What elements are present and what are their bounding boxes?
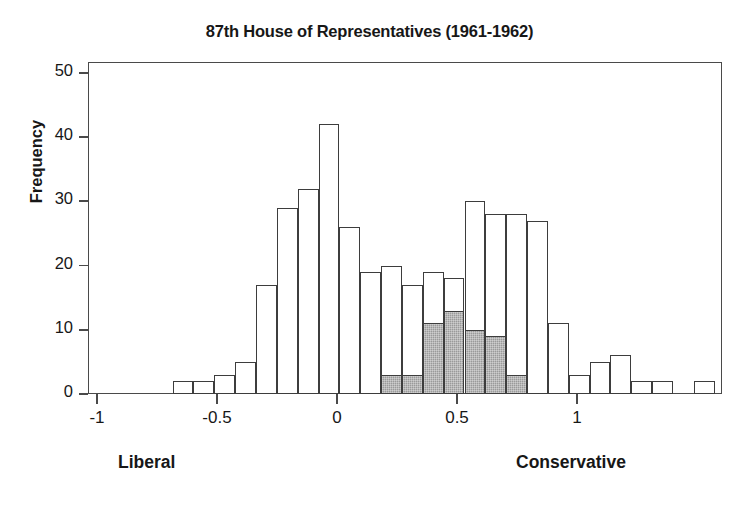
x-tick-label: -0.5	[187, 408, 247, 428]
x-axis-annotation-conservative: Conservative	[516, 452, 626, 473]
y-tick-label: 50	[55, 61, 73, 80]
x-tick-mark	[216, 394, 218, 404]
x-tick-label: 1	[547, 408, 607, 428]
y-tick-mark	[79, 200, 88, 202]
x-tick-mark	[336, 394, 338, 404]
y-tick-mark	[79, 329, 88, 331]
x-tick-mark	[96, 394, 98, 404]
y-tick-label: 30	[55, 189, 73, 208]
y-tick-mark	[79, 72, 88, 74]
x-tick-label: -1	[67, 408, 127, 428]
y-tick-label: 0	[64, 382, 73, 401]
chart-title: 87th House of Representatives (1961-1962…	[0, 22, 739, 41]
x-tick-mark	[576, 394, 578, 404]
y-tick-mark	[79, 393, 88, 395]
y-tick-mark	[79, 265, 88, 267]
y-tick-mark	[79, 136, 88, 138]
y-tick-label: 40	[55, 125, 73, 144]
y-axis-label: Frequency	[27, 92, 46, 232]
x-tick-label: 0	[307, 408, 367, 428]
x-tick-mark	[456, 394, 458, 404]
plot-area-frame	[88, 62, 722, 394]
histogram-figure: 87th House of Representatives (1961-1962…	[0, 0, 739, 511]
y-tick-label: 20	[55, 254, 73, 273]
x-tick-label: 0.5	[427, 408, 487, 428]
x-axis-annotation-liberal: Liberal	[118, 452, 175, 473]
y-tick-label: 10	[55, 318, 73, 337]
